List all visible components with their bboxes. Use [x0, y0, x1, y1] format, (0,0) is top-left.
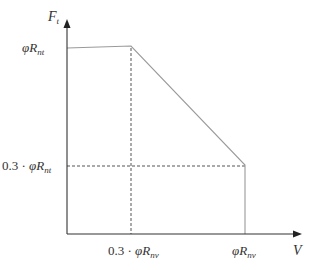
y-axis-arrow-icon [64, 19, 71, 28]
x-tick-max-shear: φRnv [232, 244, 256, 260]
x-axis-label: V [293, 244, 302, 258]
y-tick-sub: nt [44, 165, 51, 175]
y-tick-sub: nt [37, 47, 44, 57]
y-tick-prefix: 0.3 · [2, 158, 29, 173]
y-tick-reduced-tension: 0.3 · φRnt [2, 159, 51, 175]
x-tick-sub: nv [150, 250, 159, 260]
interaction-diagram [0, 0, 315, 270]
x-axis-arrow-icon [293, 231, 302, 238]
x-axis-label-main: V [293, 243, 302, 258]
x-tick-prefix: 0.3 · [108, 243, 135, 258]
y-axis-label-main: F [48, 9, 57, 24]
y-axis-label: Ft [48, 10, 59, 26]
x-tick-sub: nv [247, 250, 256, 260]
x-tick-symbol: φR [232, 243, 247, 258]
y-tick-symbol: φR [29, 158, 44, 173]
x-tick-reduced-shear: 0.3 · φRnv [108, 244, 159, 260]
y-axis-label-sub: t [57, 16, 60, 26]
x-tick-symbol: φR [135, 243, 150, 258]
interaction-curve [67, 46, 245, 234]
y-tick-max-tension: φRnt [22, 41, 44, 57]
y-tick-symbol: φR [22, 40, 37, 55]
